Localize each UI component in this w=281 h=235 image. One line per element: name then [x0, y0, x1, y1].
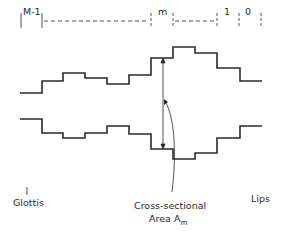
- lips-label: Lips: [251, 193, 270, 204]
- section-label-m: m: [158, 6, 167, 17]
- lower-tube-wall: [20, 119, 262, 159]
- section-label-m-minus-1: M-1: [23, 6, 41, 17]
- glottis-label: Glottis: [13, 197, 44, 208]
- cross-sectional-label: Cross-sectional: [134, 200, 206, 211]
- pointer-arrow-head-icon: [164, 99, 168, 105]
- section-label-0: 0: [245, 6, 251, 17]
- area-label-text: Area A: [149, 213, 180, 224]
- area-label: Area Am: [149, 213, 187, 227]
- upper-tube-wall: [20, 47, 262, 93]
- section-label-1: 1: [224, 6, 230, 17]
- area-label-subscript: m: [180, 219, 187, 227]
- label-pointer-curve: [165, 101, 174, 192]
